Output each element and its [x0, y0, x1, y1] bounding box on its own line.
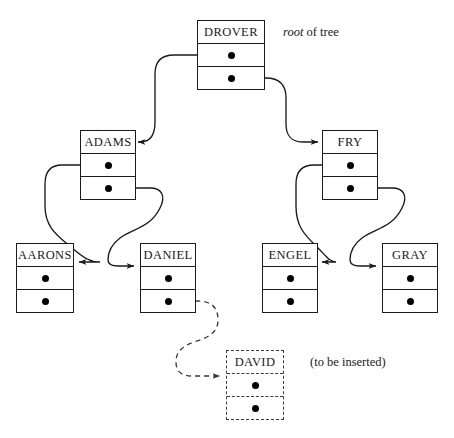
node-daniel[interactable]: DANIEL	[140, 243, 196, 313]
node-daniel-left-pointer[interactable]	[141, 267, 195, 290]
node-daniel-key: DANIEL	[141, 244, 195, 267]
node-david-right-pointer[interactable]	[227, 397, 283, 420]
node-drover-left-pointer[interactable]	[198, 44, 264, 67]
node-gray-left-pointer[interactable]	[383, 267, 437, 290]
node-aarons[interactable]: AARONS	[16, 243, 74, 313]
pointer-dot-icon	[287, 298, 294, 305]
node-adams[interactable]: ADAMS	[80, 130, 136, 200]
tree-diagram-canvas: DROVER ADAMS FRY AARONS	[0, 0, 454, 438]
pointer-dot-icon	[287, 275, 294, 282]
pointer-dot-icon	[165, 275, 172, 282]
node-gray-right-pointer[interactable]	[383, 290, 437, 313]
node-drover-right-pointer[interactable]	[198, 67, 264, 90]
node-drover[interactable]: DROVER	[197, 20, 265, 90]
node-engel-left-pointer[interactable]	[263, 267, 317, 290]
node-gray-key: GRAY	[383, 244, 437, 267]
node-drover-key: DROVER	[198, 21, 264, 44]
node-daniel-right-pointer[interactable]	[141, 290, 195, 313]
node-adams-right-pointer[interactable]	[81, 177, 135, 200]
pointer-dot-icon	[105, 162, 112, 169]
node-aarons-left-pointer[interactable]	[17, 267, 73, 290]
to-be-inserted-note: (to be inserted)	[310, 355, 386, 370]
pointer-dot-icon	[252, 382, 259, 389]
of-tree-words: of tree	[303, 25, 338, 39]
pointer-dot-icon	[105, 185, 112, 192]
pointer-dot-icon	[165, 298, 172, 305]
node-engel-right-pointer[interactable]	[263, 290, 317, 313]
node-david-key: DAVID	[227, 351, 283, 374]
node-fry-right-pointer[interactable]	[323, 177, 377, 200]
pointer-dot-icon	[347, 162, 354, 169]
node-aarons-key: AARONS	[17, 244, 73, 267]
pointer-dot-icon	[42, 275, 49, 282]
node-aarons-right-pointer[interactable]	[17, 290, 73, 313]
root-word: root	[283, 25, 303, 39]
root-of-tree-label: root of tree	[283, 25, 339, 40]
node-fry-key: FRY	[323, 131, 377, 154]
node-engel-key: ENGEL	[263, 244, 317, 267]
pointer-dot-icon	[42, 298, 49, 305]
pointer-dot-icon	[407, 298, 414, 305]
pointer-dot-icon	[407, 275, 414, 282]
pointer-dot-icon	[228, 52, 235, 59]
node-david-pending[interactable]: DAVID	[226, 350, 284, 420]
node-fry[interactable]: FRY	[322, 130, 378, 200]
node-gray[interactable]: GRAY	[382, 243, 438, 313]
node-adams-key: ADAMS	[81, 131, 135, 154]
node-adams-left-pointer[interactable]	[81, 154, 135, 177]
node-david-left-pointer[interactable]	[227, 374, 283, 397]
pointer-dot-icon	[347, 185, 354, 192]
pointer-dot-icon	[252, 405, 259, 412]
node-fry-left-pointer[interactable]	[323, 154, 377, 177]
node-engel[interactable]: ENGEL	[262, 243, 318, 313]
pointer-dot-icon	[228, 75, 235, 82]
